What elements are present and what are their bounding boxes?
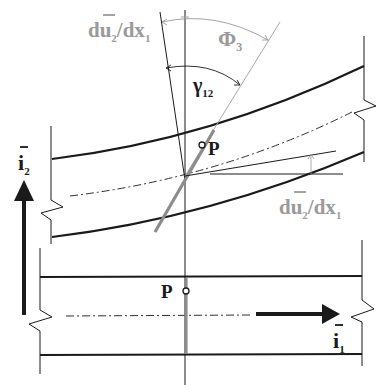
- label-gamma12: γ12: [192, 74, 214, 99]
- svg-text:i2: i2: [18, 150, 30, 177]
- label-phi3: Φ3: [218, 26, 242, 54]
- svg-text:du2/dx1: du2/dx1: [88, 18, 150, 44]
- slope-normal-line: [160, 12, 185, 180]
- point-p-undeformed-marker: [183, 288, 189, 294]
- right-break-line-bottom: [351, 240, 374, 366]
- label-axis-i2: i2: [18, 147, 30, 177]
- label-slope-top: du2/dx1: [88, 15, 150, 44]
- gamma12-arc: [166, 66, 240, 85]
- label-point-p-undeformed: P: [161, 281, 173, 302]
- axis-i1-arrow: [256, 304, 340, 324]
- left-break-line-top: [41, 126, 63, 244]
- mid-plane-straight: [66, 315, 250, 316]
- axis-i2-arrow: [14, 180, 34, 315]
- beam-deformation-diagram: du2/dx1 Φ3 γ12 P du2/dx1 i2 P: [0, 0, 391, 385]
- phi3-arc: [162, 19, 268, 40]
- svg-text:i1: i1: [333, 328, 345, 355]
- right-break-line-top: [354, 36, 376, 162]
- label-slope-right: du2/dx1: [279, 192, 341, 221]
- point-p-deformed-marker: [199, 142, 205, 148]
- label-axis-i1: i1: [333, 325, 345, 355]
- bottom-surface-straight: [40, 354, 362, 355]
- svg-text:du2/dx1: du2/dx1: [279, 195, 341, 221]
- top-surface-straight: [40, 276, 362, 277]
- label-point-p-deformed: P: [208, 138, 220, 159]
- phi3-arrow-left: [162, 19, 167, 25]
